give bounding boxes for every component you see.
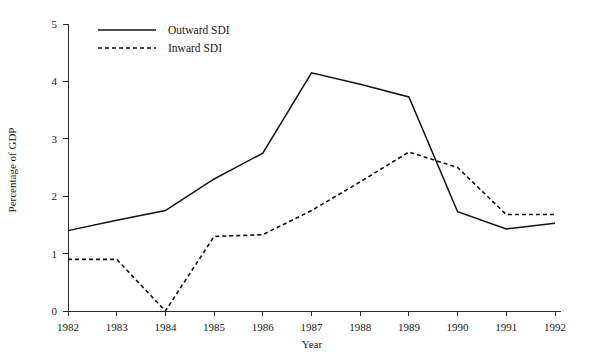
x-tick-label: 1992 (544, 321, 566, 333)
chart-legend: Outward SDIInward SDI (98, 24, 230, 54)
legend-label: Inward SDI (168, 42, 222, 54)
series-line-outward-sdi (68, 73, 555, 231)
x-axis-title: Year (302, 338, 323, 350)
y-axis-title: Percentage of GDP (6, 128, 18, 213)
y-tick-label: 5 (52, 18, 58, 30)
y-tick-label: 4 (52, 75, 58, 87)
chart-plot-area: 012345 198219831984198519861987198819891… (0, 0, 601, 362)
chart-series-lines (68, 73, 555, 311)
x-tick-label: 1986 (252, 321, 275, 333)
y-tick-label: 0 (52, 305, 58, 317)
x-tick-label: 1989 (398, 321, 421, 333)
legend-label: Outward SDI (168, 24, 230, 36)
y-tick-label: 2 (52, 190, 58, 202)
y-tick-label: 1 (52, 248, 58, 260)
x-tick-label: 1990 (447, 321, 470, 333)
y-axis-tick-labels: 012345 (52, 18, 58, 317)
y-tick-label: 3 (52, 133, 58, 145)
x-axis-tick-labels: 1982198319841985198619871988198919901991… (57, 321, 566, 333)
line-chart: 012345 198219831984198519861987198819891… (0, 0, 601, 362)
x-tick-label: 1987 (301, 321, 324, 333)
chart-tick-marks (63, 24, 555, 316)
series-line-inward-sdi (68, 152, 555, 311)
x-tick-label: 1988 (349, 321, 372, 333)
x-tick-label: 1991 (495, 321, 517, 333)
x-tick-label: 1982 (57, 321, 79, 333)
x-tick-label: 1983 (106, 321, 129, 333)
x-tick-label: 1985 (203, 321, 226, 333)
x-tick-label: 1984 (154, 321, 177, 333)
chart-axes (68, 24, 561, 311)
